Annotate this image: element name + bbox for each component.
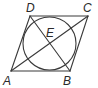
geometry-figure: A B C D E — [0, 0, 98, 88]
label-C: C — [83, 1, 92, 15]
label-A: A — [2, 74, 11, 88]
segment-BC — [70, 16, 88, 71]
segment-DA — [11, 16, 30, 71]
label-E: E — [46, 26, 55, 40]
label-D: D — [26, 1, 35, 15]
diagram-canvas: A B C D E — [0, 0, 98, 88]
segment-DB — [30, 16, 70, 71]
label-B: B — [63, 74, 71, 88]
